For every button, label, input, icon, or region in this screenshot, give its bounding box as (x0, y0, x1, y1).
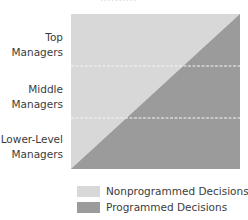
cropped-caption: .......... (100, 0, 160, 4)
legend-swatch-light-icon (77, 186, 100, 197)
decision-level-diagram (71, 14, 240, 169)
legend-item-programmed: Programmed Decisions (77, 199, 248, 215)
label-middle-managers: Middle Managers (12, 82, 64, 112)
legend: Nonprogrammed Decisions Programmed Decis… (77, 183, 248, 215)
label-top-managers: Top Managers (12, 30, 64, 60)
legend-swatch-dark-icon (77, 202, 100, 213)
legend-item-nonprogrammed: Nonprogrammed Decisions (77, 183, 248, 199)
label-lower-level-managers: Lower-Level Managers (1, 132, 63, 162)
diagonal-split-graphic (71, 14, 240, 169)
